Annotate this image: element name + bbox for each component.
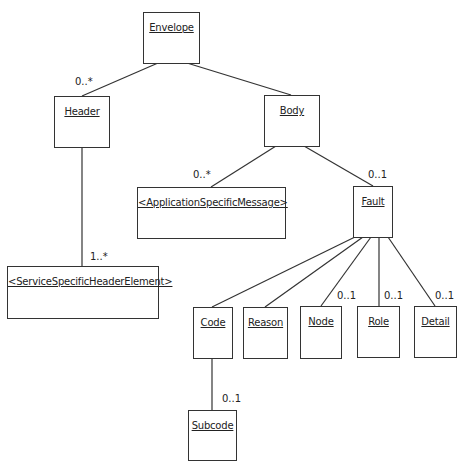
node-envelope: Envelope	[143, 12, 200, 64]
node-subcode: Subcode	[188, 410, 237, 461]
multiplicity-app-msg: 0..*	[193, 169, 211, 180]
node-label: <ApplicationSpecificMessage>	[138, 197, 285, 208]
edge-body-appmsg	[211, 146, 276, 187]
node-label: Subcode	[189, 420, 236, 431]
edge-body-fault	[304, 146, 373, 186]
multiplicity-subcode: 0..1	[222, 393, 241, 404]
node-reason: Reason	[243, 307, 288, 359]
node-role: Role	[357, 306, 400, 358]
node-fault: Fault	[353, 186, 393, 238]
edge-fault-code	[212, 237, 355, 307]
node-label: Detail	[415, 316, 456, 327]
multiplicity-role: 0..1	[384, 290, 403, 301]
edge-envelope-body	[187, 63, 291, 95]
edge-envelope-header	[82, 63, 158, 96]
node-label: Envelope	[144, 22, 199, 33]
multiplicity-detail: 0..1	[435, 290, 454, 301]
node-label: Node	[301, 316, 341, 327]
multiplicity-node: 0..1	[337, 290, 356, 301]
node-service-specific-header-element: <ServiceSpecificHeaderElement>	[7, 266, 159, 319]
node-detail: Detail	[414, 306, 457, 358]
node-label: <ServiceSpecificHeaderElement>	[8, 276, 158, 287]
multiplicity-svc-header: 1..*	[90, 251, 108, 262]
node-label: Header	[55, 106, 109, 117]
node-body: Body	[264, 95, 320, 147]
node-label: Role	[358, 316, 399, 327]
node-code: Code	[193, 307, 233, 359]
node-label: Code	[194, 317, 232, 328]
multiplicity-header: 0..*	[75, 76, 93, 87]
node-header: Header	[54, 96, 110, 148]
multiplicity-fault: 0..1	[368, 169, 387, 180]
node-application-specific-message: <ApplicationSpecificMessage>	[137, 187, 286, 239]
node-label: Body	[265, 105, 319, 116]
node-node: Node	[300, 306, 342, 359]
node-label: Fault	[354, 196, 392, 207]
node-label: Reason	[244, 317, 287, 328]
